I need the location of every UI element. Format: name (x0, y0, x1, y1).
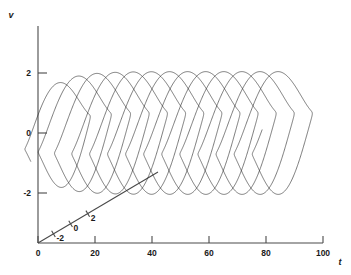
t-axis-1-ticklabel: 20 (90, 248, 100, 258)
t-axis-5-ticklabel: 100 (316, 248, 330, 258)
v-axis-0-ticklabel: 2 (26, 68, 31, 78)
t-axis-3-ticklabel: 60 (204, 248, 214, 258)
t-axis-2-ticklabel: 40 (147, 248, 157, 258)
x-axis-2-ticklabel: 2 (91, 213, 96, 223)
chart-figure: 20-2 020406080100 -202 v t (0, 0, 351, 275)
t-axis-0-ticklabel: 0 (36, 248, 41, 258)
v-axis-1-ticklabel: 0 (26, 128, 31, 138)
t-axis-4-ticklabel: 80 (261, 248, 271, 258)
v-axis-2-ticklabel: -2 (23, 188, 31, 198)
x-axis-1-ticklabel: 0 (74, 223, 79, 233)
x-axis-0-ticklabel: -2 (56, 233, 64, 243)
phase-space-plot: 20-2 020406080100 -202 v t (0, 0, 351, 275)
